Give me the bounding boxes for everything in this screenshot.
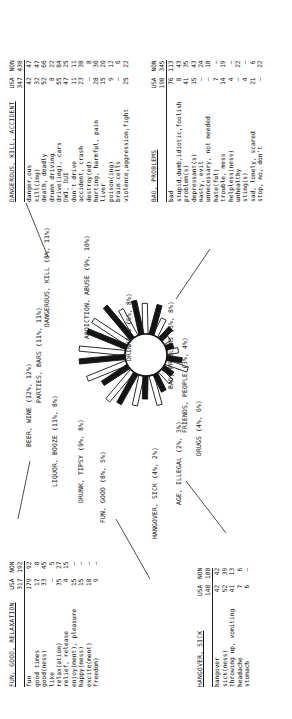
table-body: hangover4242sick(ness)5239throwing up, v… — [213, 568, 251, 687]
cell-term: helpless(ness) — [227, 94, 234, 202]
category-label-addiction-abuse: ADDICTION, ABUSE (9%, 10%) — [84, 235, 90, 339]
cell-non: 22 — [48, 60, 55, 77]
category-label-drinking: DRINKING (6%, 8%) — [126, 293, 132, 361]
category-label-drunk-tipsy: DRUNK, TIPSY (9%, 8%) — [78, 419, 84, 503]
cell-term: relief, release — [62, 595, 69, 687]
table-row: freedom)9– — [92, 561, 99, 687]
table-row: stop, no, don't–22 — [256, 60, 263, 202]
table-header-row: BAD, PROBLEMS USA NON — [150, 60, 158, 202]
table-row: liver1520 — [99, 60, 106, 202]
data-table: FUN, GOOD, RELAXATION USA NON 317 192 fu… — [8, 561, 99, 687]
total-usa: 190 — [158, 77, 165, 94]
cell-term: liver — [99, 94, 106, 202]
column-header-usa: USA — [8, 77, 16, 94]
cell-term: headache — [236, 602, 243, 687]
total-non: 100 — [204, 568, 211, 585]
cell-usa: – — [114, 77, 121, 94]
table-row: stomach6– — [243, 568, 250, 687]
cell-usa: 11 — [70, 77, 77, 94]
cell-non: – — [227, 60, 234, 77]
table-title: BAD, PROBLEMS — [150, 94, 158, 202]
cell-usa: 41 — [182, 77, 189, 94]
cell-usa: – — [48, 578, 55, 595]
cell-non: 6 — [114, 60, 121, 77]
cell-usa: 21 — [249, 77, 256, 94]
cell-usa: – — [204, 77, 211, 94]
cell-non: – — [92, 561, 99, 578]
cell-non: 19 — [219, 60, 226, 77]
table-title: HANGOVER, SICK — [196, 602, 204, 687]
table-row: depressant(s)1543 — [190, 60, 197, 202]
cell-term: violence,aggression,fight — [122, 94, 129, 202]
cell-non: – — [243, 568, 250, 585]
cell-term: good times — [33, 595, 40, 687]
cell-term: throwing up, vomiting — [228, 602, 235, 687]
table-row: violence,aggression,fight2522 — [122, 60, 129, 202]
cell-non: 39 — [221, 568, 228, 585]
cell-term: sad, lonely, scared — [249, 94, 256, 202]
cell-non: – — [212, 60, 219, 77]
table-row: kill(ing)3247 — [33, 60, 40, 202]
category-label-fun-good: FUN, GOOD (8%, 5%) — [100, 451, 106, 523]
cell-term: stupid,dumb,idiotic,foolish — [175, 94, 182, 202]
cell-non: 24 — [197, 60, 204, 77]
cell-usa: 33 — [40, 578, 47, 595]
cell-term: death, deadly — [40, 94, 47, 202]
cell-usa: 4 — [62, 578, 69, 595]
table-row: relax(ation)3527 — [55, 561, 62, 687]
cell-term: unhealthy — [234, 94, 241, 202]
table-row: death, deadly5266 — [40, 60, 47, 202]
cell-term: poison(ing) — [107, 94, 114, 202]
sunburst-bar-usa — [79, 354, 125, 364]
totals-spacer — [16, 94, 23, 202]
leader-line-beer-wine — [18, 461, 30, 519]
leader-line-fun-good — [116, 519, 150, 579]
cell-non: 6 — [236, 568, 243, 585]
table-row: sting(s)4– — [241, 60, 248, 202]
table-dangerous-kill-accident: DANGEROUS, KILL, ACCIDENT USA NON 347 43… — [8, 60, 129, 202]
cell-term: depressant(s) — [190, 94, 197, 202]
table-row: unnecessary, not needed–18 — [204, 60, 211, 202]
table-bad-problems: BAD, PROBLEMS USA NON 190 345 bad76113st… — [150, 60, 264, 202]
data-table: DANGEROUS, KILL, ACCIDENT USA NON 347 43… — [8, 60, 129, 202]
table-body: danger,ous4247kill(ing)3247death, deadly… — [25, 60, 129, 202]
total-non: 345 — [158, 60, 165, 77]
cell-term: good(ness) — [40, 595, 47, 687]
cell-usa: 35 — [55, 578, 62, 595]
cell-usa: 179 — [25, 578, 33, 595]
cell-term: bad — [167, 94, 175, 202]
cell-usa: – — [85, 77, 92, 94]
cell-term: unnecessary, not needed — [204, 94, 211, 202]
cell-term: don't drive — [70, 94, 77, 202]
cell-non: 22 — [122, 60, 129, 77]
table-row: good(ness)3345 — [40, 561, 47, 687]
cell-non: 20 — [99, 60, 106, 77]
cell-usa: 42 — [213, 585, 221, 602]
cell-usa: 15 — [70, 578, 77, 595]
total-usa: 347 — [16, 77, 23, 94]
table-hangover-sick: HANGOVER, SICK USA NON 148 100 hangover4… — [196, 568, 250, 687]
table-totals-row: 347 438 — [16, 60, 23, 202]
table-row: enjoy(ment), pleasure15– — [70, 561, 77, 687]
cell-non: 8 — [85, 60, 92, 77]
table-fun-good-relaxation: FUN, GOOD, RELAXATION USA NON 317 192 fu… — [8, 561, 99, 687]
cell-term: drive(ing), cars — [55, 94, 62, 202]
leader-line-hangover-sick — [186, 481, 226, 533]
table-row: sick(ness)5239 — [221, 568, 228, 687]
cell-usa: 15 — [190, 77, 197, 94]
total-non: 438 — [16, 60, 23, 77]
table-row: bad76113 — [167, 60, 175, 202]
cell-usa: 9 — [92, 578, 99, 595]
table-row: destroy(ed)–8 — [85, 60, 92, 202]
cell-term: fun — [25, 595, 33, 687]
table-row: hangover4242 — [213, 568, 221, 687]
data-table: BAD, PROBLEMS USA NON 190 345 bad76113st… — [150, 60, 264, 202]
cell-term: problem(s) — [182, 94, 189, 202]
cell-usa: 32 — [33, 77, 40, 94]
cell-non: – — [77, 561, 84, 578]
column-header-usa: USA — [196, 585, 204, 602]
cell-non: 43 — [190, 60, 197, 77]
sunburst-bar-usa — [142, 376, 148, 399]
cell-term: accident, crash — [77, 94, 84, 202]
category-label-age-illegal: AGE, ILLEGAL (2%, 3%) — [176, 421, 182, 505]
